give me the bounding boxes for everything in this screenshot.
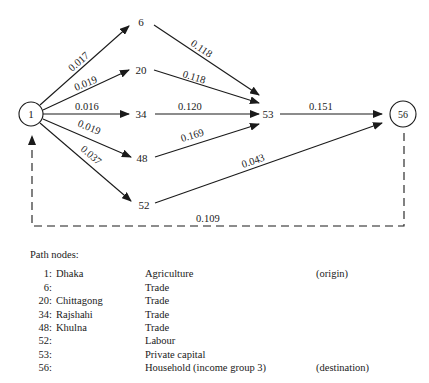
legend-num: 48: <box>30 321 52 334</box>
edge-1-52 <box>40 123 131 201</box>
legend-row: 6: Trade <box>30 281 369 294</box>
legend-city <box>52 348 145 361</box>
legend-city: Khulna <box>52 321 145 334</box>
legend-sector: Labour <box>145 334 316 347</box>
legend-role: (origin) <box>316 267 348 280</box>
legend-num: 20: <box>30 294 52 307</box>
legend-row: 52: Labour <box>30 334 369 347</box>
legend-role: (destination) <box>316 361 369 374</box>
legend-row: 48: Khulna Trade <box>30 321 369 334</box>
label-48-53: 0.169 <box>179 126 205 143</box>
legend-city <box>52 361 145 374</box>
legend-sector: Trade <box>145 321 316 334</box>
legend-city: Rajshahi <box>52 308 145 321</box>
legend-num: 34: <box>30 308 52 321</box>
node-48: 48 <box>137 152 149 164</box>
legend-sector: Trade <box>145 294 316 307</box>
label-52-56: 0.043 <box>240 152 266 170</box>
legend-num: 56: <box>30 361 52 374</box>
label-1-6: 0.017 <box>66 50 91 74</box>
legend-sector: Trade <box>145 308 316 321</box>
legend-row: 20: Chittagong Trade <box>30 294 369 307</box>
legend-num: 53: <box>30 348 52 361</box>
legend-city: Chittagong <box>52 294 145 307</box>
edge-6-53 <box>154 25 259 95</box>
node-52: 52 <box>139 199 150 211</box>
edge-48-53 <box>155 124 259 157</box>
legend: Path nodes: 1: Dhaka Agriculture (origin… <box>30 248 369 375</box>
edge-labels: 0.017 0.019 0.016 0.019 0.037 0.118 0.11… <box>66 38 333 224</box>
label-34-53: 0.120 <box>178 101 202 112</box>
label-56-1: 0.109 <box>196 213 220 224</box>
legend-num: 6: <box>30 281 52 294</box>
node-20: 20 <box>136 64 148 76</box>
legend-row: 53: Private capital <box>30 348 369 361</box>
node-56: 56 <box>398 109 408 120</box>
legend-num: 52: <box>30 334 52 347</box>
legend-city: Dhaka <box>52 267 145 280</box>
legend-row: 1: Dhaka Agriculture (origin) <box>30 267 369 280</box>
node-53: 53 <box>263 108 275 120</box>
path-diagram: 1 6 20 34 48 52 53 56 0.017 0.019 0.016 … <box>0 0 429 245</box>
label-1-52: 0.037 <box>79 143 104 167</box>
legend-sector: Household (income group 3) <box>145 361 316 374</box>
label-53-56: 0.151 <box>309 101 333 112</box>
legend-sector: Trade <box>145 281 316 294</box>
legend-sector: Private capital <box>145 348 316 361</box>
edge-1-6 <box>40 26 129 105</box>
label-1-34: 0.016 <box>75 101 99 112</box>
legend-num: 1: <box>30 267 52 280</box>
legend-row: 34: Rajshahi Trade <box>30 308 369 321</box>
legend-title: Path nodes: <box>30 248 369 261</box>
node-6: 6 <box>138 16 144 28</box>
legend-city <box>52 281 145 294</box>
legend-row: 56: Household (income group 3) (destinat… <box>30 361 369 374</box>
legend-sector: Agriculture <box>145 267 316 280</box>
label-1-48: 0.019 <box>76 118 102 137</box>
node-1: 1 <box>28 108 34 120</box>
legend-city <box>52 334 145 347</box>
node-34: 34 <box>136 108 148 120</box>
